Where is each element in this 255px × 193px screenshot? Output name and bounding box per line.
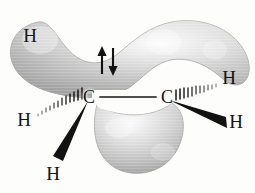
atom-label-hydrogen-upper-right: H (222, 68, 236, 87)
orbital-diagram (0, 0, 255, 193)
hash-bond-right (176, 84, 216, 100)
atom-label-carbon-right: C (161, 88, 173, 106)
atom-label-hydrogen-lower-left: H (46, 164, 60, 183)
atom-label-carbon-left: C (83, 88, 95, 106)
atom-label-hydrogen-upper-left: H (23, 26, 37, 45)
lower-pi-lobe (94, 103, 183, 173)
upper-pi-lobe (10, 21, 249, 98)
figure-canvas: C C H H H H H (0, 0, 255, 193)
wedge-bond-lower-left (53, 101, 88, 161)
atom-label-hydrogen-left-back: H (17, 110, 31, 129)
atom-label-hydrogen-lower-right: H (229, 112, 243, 131)
